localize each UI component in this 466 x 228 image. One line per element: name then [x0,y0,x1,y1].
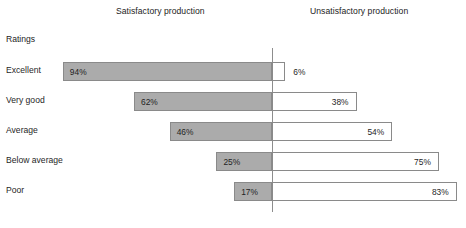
bar-value-unsatisfactory: 75% [414,157,431,167]
bar-segment-unsatisfactory: 75% [272,152,439,171]
bar-value-unsatisfactory: 38% [332,97,349,107]
bar-row: Average46%54% [0,120,466,142]
bar-value-satisfactory: 17% [241,187,258,197]
bar-row-label: Poor [6,185,24,195]
bar-value-satisfactory: 25% [223,157,240,167]
bar-row-label: Average [6,125,38,135]
column-heading-satisfactory: Satisfactory production [116,6,205,16]
bar-segment-unsatisfactory: 38% [272,92,357,111]
column-heading-unsatisfactory: Unsatisfactory production [310,6,408,16]
bar-segment-unsatisfactory [272,62,285,81]
bar-segment-unsatisfactory: 83% [272,182,457,201]
bar-value-satisfactory: 46% [177,127,194,137]
bar-value-unsatisfactory: 54% [367,127,384,137]
bar-segment-satisfactory: 25% [216,152,272,171]
bar-row-label: Below average [6,155,63,165]
bar-row-label: Very good [6,95,45,105]
bar-segment-satisfactory: 17% [234,182,272,201]
bar-segment-satisfactory: 62% [134,92,272,111]
bar-value-satisfactory: 62% [141,97,158,107]
bar-value-unsatisfactory: 6% [293,67,305,77]
bar-row: Poor17%83% [0,180,466,202]
bar-segment-satisfactory: 46% [170,122,272,141]
bar-value-unsatisfactory: 83% [432,187,449,197]
bar-row: Below average25%75% [0,150,466,172]
axis-label-ratings: Ratings [6,34,35,44]
bar-row: Excellent94%6% [0,60,466,82]
diverging-bar-chart: Satisfactory production Unsatisfactory p… [0,0,466,228]
bar-row-label: Excellent [6,65,41,75]
bar-row: Very good62%38% [0,90,466,112]
bar-segment-satisfactory: 94% [63,62,272,81]
bar-segment-unsatisfactory: 54% [272,122,392,141]
bar-value-satisfactory: 94% [70,67,87,77]
